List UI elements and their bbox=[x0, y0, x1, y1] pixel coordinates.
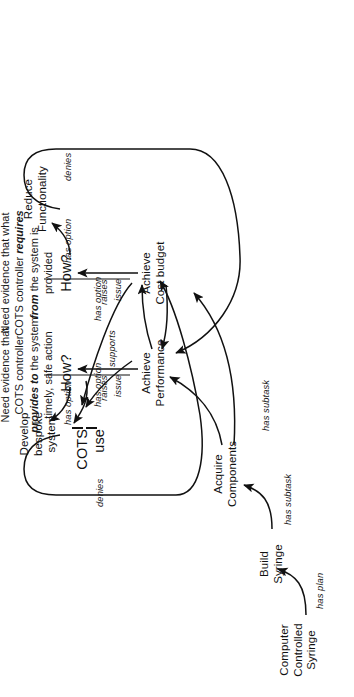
node-evidence-requires-from[interactable]: Need evidence that what COTS controller … bbox=[0, 185, 55, 361]
evidence-requires-emphasis-2: from bbox=[28, 294, 40, 318]
node-acquire-components[interactable]: Acquire Components bbox=[212, 437, 239, 511]
edge-label-has-option-cots-right: has option bbox=[92, 277, 103, 321]
edge-label-supports: supports bbox=[106, 330, 117, 367]
edge-label-issue-right: issue bbox=[112, 279, 123, 301]
evidence-provides-emphasis: provides to bbox=[28, 373, 40, 432]
edge-label-has-plan: has plan bbox=[314, 573, 325, 609]
edge-label-has-option-cots-left: has option bbox=[92, 363, 103, 407]
node-root[interactable]: Computer Controlled Syringe bbox=[278, 611, 319, 689]
edge-has-option-cots-left-line bbox=[74, 381, 87, 423]
edge-has-subtask-1 bbox=[244, 485, 272, 529]
edge-label-has-subtask-1: has subtask bbox=[282, 474, 293, 525]
edge-label-denies-right: denies bbox=[62, 153, 73, 181]
diagram-canvas: Computer Controlled Syringe Build Syring… bbox=[0, 0, 354, 697]
edge-denies-right bbox=[24, 149, 240, 353]
edge-acquire-to-performance bbox=[170, 377, 222, 445]
edge-label-issue-left: issue bbox=[112, 375, 123, 397]
edge-has-option-cots-right-line bbox=[76, 227, 87, 259]
node-achieve-performance[interactable]: Achieve Performance bbox=[140, 337, 167, 409]
node-build-syringe[interactable]: Build Syringe bbox=[258, 533, 285, 595]
diagram-rotation-wrapper: Computer Controlled Syringe Build Syring… bbox=[0, 0, 354, 697]
evidence-requires-emphasis-1: requires bbox=[13, 210, 25, 253]
node-achieve-cost-budget[interactable]: Achieve Cost budget bbox=[140, 235, 167, 311]
evidence-requires-line2: the system is provided bbox=[28, 227, 54, 294]
edge-label-has-subtask-2: has subtask bbox=[260, 380, 271, 431]
edge-label-has-option-reduce: has option bbox=[62, 219, 73, 263]
edge-label-denies-left: denies bbox=[94, 479, 105, 507]
edge-label-has-option-bespoke: has option bbox=[62, 381, 73, 425]
edge-has-option-cots-right bbox=[74, 235, 87, 265]
